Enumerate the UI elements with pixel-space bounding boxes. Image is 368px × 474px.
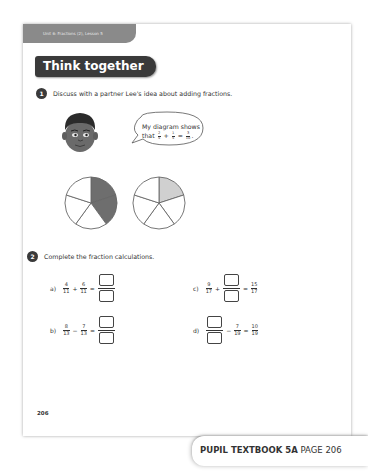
fraction: 917 [206, 282, 212, 294]
denominator-answer-box[interactable] [207, 332, 222, 344]
textbook-page-badge: PUPIL TEXTBOOK 5A PAGE 206 [192, 436, 368, 466]
calculation-c: c) 917 + = 1517 [193, 274, 258, 302]
equals-sign: = [243, 285, 248, 292]
denominator: 10 [186, 137, 191, 141]
operator: − [226, 327, 231, 334]
page-number: 206 [37, 410, 48, 416]
numerator-answer-box[interactable] [207, 316, 222, 328]
operator: + [72, 285, 77, 292]
denominator-answer-box[interactable] [224, 290, 239, 302]
denominator: 5 [158, 137, 160, 141]
fraction: 1019 [252, 324, 258, 336]
calculation-d: d) − 719 = 1019 [193, 316, 259, 344]
plus-sign: + [164, 132, 169, 139]
fraction: 611 [80, 282, 86, 294]
item-label: c) [193, 285, 199, 292]
speech-text: My diagram shows that 25 + 15 = 310. [142, 122, 200, 141]
unit-header-band: Unit 6: Fractions (2), Lesson 5 [23, 24, 136, 43]
fraction: 1517 [251, 282, 257, 294]
question-2-number: 2 [27, 251, 38, 262]
operator: − [73, 327, 78, 334]
equals-sign: = [90, 285, 95, 292]
fraction: 719 [234, 324, 240, 336]
numerator-answer-box[interactable] [224, 274, 239, 286]
answer-fraction-boxes[interactable] [98, 274, 115, 302]
calculation-b: b) 813 − 713 = [50, 316, 116, 344]
numerator-answer-box[interactable] [99, 274, 114, 286]
answer-fraction-boxes[interactable] [98, 316, 115, 344]
speech-prefix: that [142, 132, 155, 139]
denominator-answer-box[interactable] [99, 290, 114, 302]
denominator: 11 [80, 289, 86, 295]
fraction-circle-one-fifth [131, 175, 187, 231]
question-1-prompt: Discuss with a partner Lee's idea about … [53, 90, 232, 97]
denominator: 5 [172, 137, 174, 141]
item-label: b) [50, 327, 56, 334]
fraction: 813 [63, 324, 69, 336]
question-2-prompt: Complete the fraction calculations. [44, 253, 154, 260]
denominator: 19 [252, 331, 258, 337]
speech-line-1: My diagram shows [142, 122, 200, 131]
denominator: 17 [206, 289, 212, 295]
fraction-circle-two-fifths [63, 175, 119, 231]
textbook-page: Unit 6: Fractions (2), Lesson 5 Think to… [23, 24, 351, 436]
denominator: 13 [81, 331, 87, 337]
fraction-one-fifth: 15 [172, 132, 175, 141]
denominator: 19 [234, 331, 240, 337]
denominator: 17 [251, 289, 257, 295]
equals-sign: = [90, 327, 95, 334]
page-label: PAGE 206 [301, 445, 342, 455]
fraction-two-fifths: 25 [158, 132, 161, 141]
operator: + [215, 285, 220, 292]
speech-line-2: that 25 + 15 = 310. [142, 131, 200, 141]
denominator-answer-box[interactable] [99, 332, 114, 344]
fraction-three-tenths: 310 [186, 132, 191, 141]
period: . [191, 132, 193, 139]
denominator: 13 [63, 331, 69, 337]
unit-lesson-label: Unit 6: Fractions (2), Lesson 5 [43, 31, 103, 36]
lee-character-face-icon [61, 110, 99, 154]
equals-sign: = [178, 132, 183, 139]
answer-fraction-boxes[interactable] [206, 316, 223, 344]
numerator-answer-box[interactable] [99, 316, 114, 328]
item-label: a) [50, 285, 56, 292]
item-label: d) [193, 327, 199, 334]
section-title: Think together [35, 56, 156, 77]
denominator: 11 [63, 289, 69, 295]
equals-sign: = [244, 327, 249, 334]
fraction: 411 [63, 282, 69, 294]
book-label: PUPIL TEXTBOOK 5A [200, 445, 298, 455]
answer-fraction-boxes[interactable] [223, 274, 240, 302]
footer-label: PUPIL TEXTBOOK 5A PAGE 206 [200, 445, 342, 455]
question-1-number: 1 [36, 88, 47, 99]
fraction: 713 [81, 324, 87, 336]
calculation-a: a) 411 + 611 = [50, 274, 116, 302]
